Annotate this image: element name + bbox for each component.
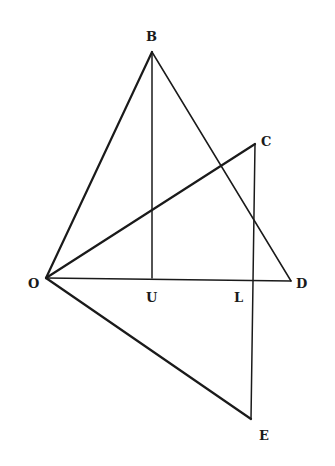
point-label-O: O (28, 276, 39, 291)
point-label-B: B (146, 29, 157, 44)
point-label-E: E (259, 428, 269, 443)
segment-OD (46, 278, 291, 281)
point-label-D: D (296, 276, 307, 291)
geometry-diagram: B C O U L D E (0, 0, 335, 466)
point-label-U: U (146, 290, 158, 305)
segment-CE (251, 144, 255, 419)
point-label-C: C (261, 134, 271, 149)
point-label-L: L (234, 290, 243, 305)
